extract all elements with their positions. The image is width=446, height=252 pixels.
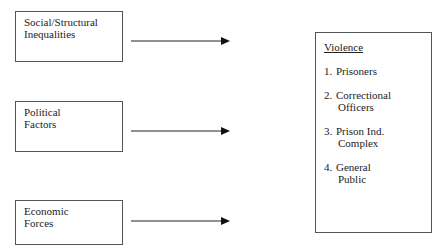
effect-item-general-public: 4. General Public [324,161,431,185]
effect-item-prisoners: 1. Prisoners [324,65,431,77]
item-number: 2. [324,89,336,113]
arrowhead-icon [221,127,230,135]
arrowhead-icon [221,37,230,45]
effect-box-violence: Violence 1. Prisoners 2. Correctional Of… [315,32,432,233]
arrow-economic-to-violence [131,217,230,225]
item-label-line: Prisoners [336,65,377,77]
item-label-line: Prison Ind. [336,125,384,137]
effect-item-correctional-officers: 2. Correctional Officers [324,89,431,113]
effect-title: Violence [324,41,431,53]
arrow-political-to-violence [131,127,230,135]
item-label-line: Correctional [336,89,391,101]
arrowhead-icon [221,217,230,225]
item-number: 1. [324,65,336,77]
item-number: 3. [324,125,336,149]
item-label-line: Complex [336,137,384,149]
effect-item-prison-industrial-complex: 3. Prison Ind. Complex [324,125,431,149]
item-label-line: Public [336,173,371,185]
arrow-social-to-violence [131,37,230,45]
item-label-line: General [336,161,371,173]
item-label-line: Officers [336,101,391,113]
item-number: 4. [324,161,336,185]
